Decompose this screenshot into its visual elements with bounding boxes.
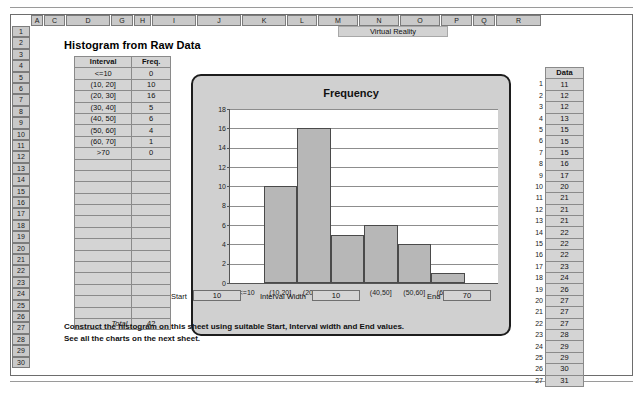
cell-data-value[interactable]: 27: [546, 295, 584, 306]
list-item[interactable]: 21: [546, 204, 584, 215]
cell-frequency[interactable]: 0: [132, 148, 171, 159]
cell-frequency-empty[interactable]: [132, 227, 171, 238]
cell-frequency[interactable]: 1: [132, 136, 171, 147]
cell-interval[interactable]: (40, 50]: [75, 113, 132, 124]
cell-data-value[interactable]: 13: [546, 113, 584, 124]
row-header-13[interactable]: 13: [12, 163, 30, 174]
column-header-n[interactable]: N: [359, 15, 399, 26]
cell-frequency[interactable]: 5: [132, 102, 171, 113]
cell-data-value[interactable]: 16: [546, 159, 584, 170]
cell-frequency-empty[interactable]: [132, 193, 171, 204]
table-row-empty[interactable]: [75, 307, 171, 318]
table-row[interactable]: (10, 20]10: [75, 79, 171, 90]
cell-data-value[interactable]: 15: [546, 124, 584, 135]
cell-interval-empty[interactable]: [75, 262, 132, 273]
list-item[interactable]: 21: [546, 193, 584, 204]
row-header-22[interactable]: 22: [12, 265, 30, 276]
cell-data-value[interactable]: 29: [546, 341, 584, 352]
interval-width-input[interactable]: 10: [312, 290, 360, 301]
column-header-l[interactable]: L: [287, 15, 317, 26]
cell-data-value[interactable]: 21: [546, 216, 584, 227]
start-input[interactable]: 10: [193, 290, 241, 301]
cell-data-value[interactable]: 23: [546, 261, 584, 272]
cell-interval[interactable]: (60, 70]: [75, 136, 132, 147]
table-row-empty[interactable]: [75, 182, 171, 193]
cell-data-value[interactable]: 15: [546, 136, 584, 147]
cell-interval-empty[interactable]: [75, 284, 132, 295]
cell-interval-empty[interactable]: [75, 159, 132, 170]
cell-frequency-empty[interactable]: [132, 205, 171, 216]
table-row-empty[interactable]: [75, 250, 171, 261]
cell-data-value[interactable]: 20: [546, 181, 584, 192]
list-item[interactable]: 15: [546, 147, 584, 158]
cell-data-value[interactable]: 28: [546, 329, 584, 340]
cell-frequency-empty[interactable]: [132, 284, 171, 295]
cell-data-value[interactable]: 15: [546, 147, 584, 158]
cell-data-value[interactable]: 12: [546, 102, 584, 113]
row-header-8[interactable]: 8: [12, 106, 30, 117]
row-header-12[interactable]: 12: [12, 151, 30, 162]
histogram-bar[interactable]: [398, 244, 432, 283]
table-row-empty[interactable]: [75, 273, 171, 284]
list-item[interactable]: 13: [546, 113, 584, 124]
table-row-empty[interactable]: [75, 239, 171, 250]
cell-data-value[interactable]: 31: [546, 375, 584, 386]
table-row-empty[interactable]: [75, 205, 171, 216]
cell-frequency-empty[interactable]: [132, 170, 171, 181]
row-header-17[interactable]: 17: [12, 208, 30, 219]
column-header-q[interactable]: Q: [473, 15, 495, 26]
column-header-g[interactable]: G: [111, 15, 133, 26]
cell-data-value[interactable]: 22: [546, 227, 584, 238]
histogram-bar[interactable]: [331, 235, 365, 283]
cell-frequency-empty[interactable]: [132, 159, 171, 170]
row-header-19[interactable]: 19: [12, 231, 30, 242]
list-item[interactable]: 12: [546, 102, 584, 113]
list-item[interactable]: 28: [546, 329, 584, 340]
cell-data-value[interactable]: 21: [546, 204, 584, 215]
row-header-21[interactable]: 21: [12, 254, 30, 265]
cell-frequency-empty[interactable]: [132, 250, 171, 261]
list-item[interactable]: 31: [546, 375, 584, 386]
row-header-1[interactable]: 1: [12, 26, 30, 37]
table-row-empty[interactable]: [75, 262, 171, 273]
histogram-bar[interactable]: [431, 273, 465, 283]
cell-data-value[interactable]: 30: [546, 364, 584, 375]
row-header-14[interactable]: 14: [12, 174, 30, 185]
column-header-k[interactable]: K: [242, 15, 286, 26]
cell-frequency-empty[interactable]: [132, 273, 171, 284]
row-header-27[interactable]: 27: [12, 322, 30, 333]
cell-interval[interactable]: <=10: [75, 68, 132, 79]
row-header-20[interactable]: 20: [12, 243, 30, 254]
list-item[interactable]: 29: [546, 341, 584, 352]
table-row[interactable]: (20, 30]16: [75, 91, 171, 102]
cell-interval[interactable]: (30, 40]: [75, 102, 132, 113]
cell-interval-empty[interactable]: [75, 170, 132, 181]
row-header-30[interactable]: 30: [12, 357, 30, 368]
table-row-empty[interactable]: [75, 284, 171, 295]
cell-interval-empty[interactable]: [75, 250, 132, 261]
histogram-bar[interactable]: [264, 186, 298, 283]
table-row[interactable]: >700: [75, 148, 171, 159]
cell-frequency-empty[interactable]: [132, 239, 171, 250]
cell-interval[interactable]: (20, 30]: [75, 91, 132, 102]
row-header-16[interactable]: 16: [12, 197, 30, 208]
cell-interval-empty[interactable]: [75, 296, 132, 307]
cell-data-value[interactable]: 26: [546, 284, 584, 295]
cell-interval-empty[interactable]: [75, 307, 132, 318]
row-header-28[interactable]: 28: [12, 334, 30, 345]
column-header-j[interactable]: J: [197, 15, 241, 26]
row-header-26[interactable]: 26: [12, 311, 30, 322]
list-item[interactable]: 11: [546, 79, 584, 90]
cell-data-value[interactable]: 21: [546, 193, 584, 204]
row-header-5[interactable]: 5: [12, 72, 30, 83]
row-header-2[interactable]: 2: [12, 37, 30, 48]
list-item[interactable]: 15: [546, 136, 584, 147]
list-item[interactable]: 22: [546, 227, 584, 238]
row-header-10[interactable]: 10: [12, 129, 30, 140]
cell-data-value[interactable]: 17: [546, 170, 584, 181]
column-header-p[interactable]: P: [441, 15, 472, 26]
cell-interval-empty[interactable]: [75, 216, 132, 227]
end-input[interactable]: 70: [443, 290, 491, 301]
column-header-r[interactable]: R: [496, 15, 541, 26]
list-item[interactable]: 23: [546, 261, 584, 272]
